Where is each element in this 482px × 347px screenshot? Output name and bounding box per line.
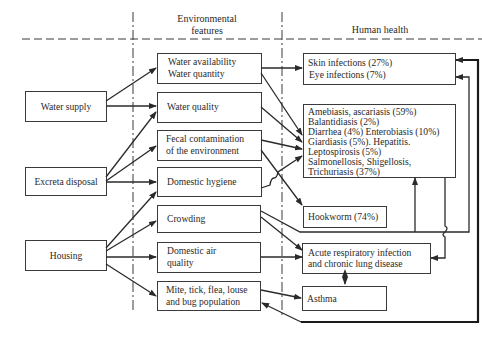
feature-fecal-contamination: Fecal contamination of the environment: [158, 131, 262, 161]
source-label: Water supply: [41, 101, 92, 112]
feature-label: Domestic hygiene: [167, 176, 237, 187]
feature-label: Crowding: [167, 213, 206, 224]
source-excreta-disposal: Excreta disposal: [26, 168, 107, 196]
outcome-line: Asthma: [307, 293, 338, 304]
feature-domestic-air-quality: Domestic air quality: [158, 243, 261, 273]
outcome-asthma: Asthma: [303, 287, 387, 311]
feature-label-line2: Water quantity: [168, 68, 225, 79]
feature-label-line1: Mite, tick, flea, louse: [166, 284, 248, 295]
feature-label-line1: Water availability: [168, 56, 236, 67]
source-housing: Housing: [26, 241, 107, 271]
source-water-supply: Water supply: [26, 92, 107, 122]
source-to-feature-arrows: [106, 68, 156, 296]
header-environmental-line1: Environmental: [177, 13, 237, 24]
outcome-skin-eye: Skin infections (27%) Eye infections (7%…: [304, 54, 456, 85]
source-label: Housing: [50, 250, 83, 261]
outcome-line: Hookworm (74%): [308, 211, 378, 223]
feature-label-line1: Fecal contamination: [166, 133, 244, 144]
feature-label-line2: and bug population: [166, 296, 240, 307]
outcome-enteric: Amebiasis, ascariasis (59%) Balantidiasi…: [304, 105, 456, 179]
feature-water-availability: Water availability Water quantity: [158, 54, 262, 84]
feature-label: Water quality: [167, 101, 219, 112]
feature-label-line2: of the environment: [166, 145, 239, 156]
outcome-hookworm: Hookworm (74%): [304, 207, 387, 228]
outcome-line: and chronic lung disease: [308, 258, 403, 269]
outcome-line: Acute respiratory infection: [308, 247, 412, 258]
outcome-line: Eye infections (7%): [309, 69, 386, 81]
feature-domestic-hygiene: Domestic hygiene: [158, 168, 262, 197]
feature-label-line2: quality: [167, 257, 194, 268]
source-label: Excreta disposal: [34, 176, 97, 187]
feature-water-quality: Water quality: [158, 93, 262, 123]
feature-vector-population: Mite, tick, flea, louse and bug populati…: [158, 282, 261, 311]
header-human-health: Human health: [352, 24, 408, 35]
outcome-line: Skin infections (27%): [308, 57, 392, 69]
outcome-respiratory: Acute respiratory infection and chronic …: [303, 244, 431, 274]
feature-crowding: Crowding: [158, 206, 261, 233]
diagram-canvas: Environmental features Human health Wate…: [0, 0, 482, 347]
outcome-line: Trichuriasis (37%): [308, 166, 380, 178]
header-environmental-line2: features: [191, 25, 223, 36]
column-headers: Environmental features Human health: [177, 13, 408, 36]
feature-label-line1: Domestic air: [167, 245, 217, 256]
